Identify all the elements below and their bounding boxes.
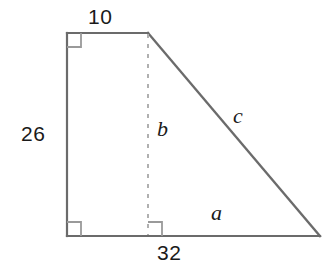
right-angle-marker-top-left [67, 33, 81, 47]
bottom-side-length-label: 32 [157, 242, 181, 263]
altitude-variable-label: b [157, 118, 168, 140]
left-side-length-label: 26 [21, 123, 45, 144]
hypotenuse-variable-label: c [233, 105, 243, 127]
base-segment-variable-label: a [211, 202, 222, 224]
right-angle-marker-altitude-foot [148, 222, 162, 236]
right-angle-marker-bottom-left [67, 222, 81, 236]
top-side-length-label: 10 [88, 6, 112, 27]
hypotenuse-segment [148, 33, 320, 236]
